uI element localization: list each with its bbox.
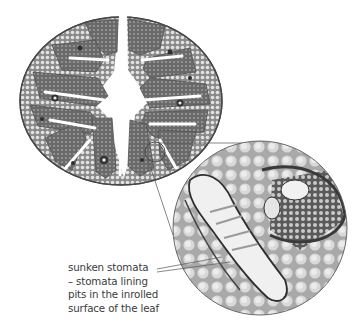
annotation-line-1: sunken stomata — [68, 261, 168, 275]
leaf-cross-section-diagram — [0, 0, 358, 333]
annotation-line-4: surface of the leaf — [68, 302, 168, 316]
annotation-line-3: pits in the inrolled — [68, 288, 168, 302]
annotation-line-2: – stomata lining — [68, 275, 168, 289]
magnified-inset — [170, 138, 350, 318]
leaf-section — [20, 14, 222, 185]
annotation-sunken-stomata: sunken stomata – stomata lining pits in … — [68, 261, 168, 315]
